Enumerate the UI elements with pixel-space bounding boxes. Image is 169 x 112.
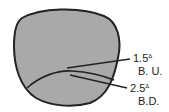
lens-outline: [14, 9, 119, 105]
label-2-base: B.D.: [138, 96, 159, 107]
label-1-value: 1.5Δ: [133, 53, 152, 64]
label-1-base: B. U.: [138, 66, 162, 77]
label-2-value: 2.5Δ: [130, 83, 149, 94]
